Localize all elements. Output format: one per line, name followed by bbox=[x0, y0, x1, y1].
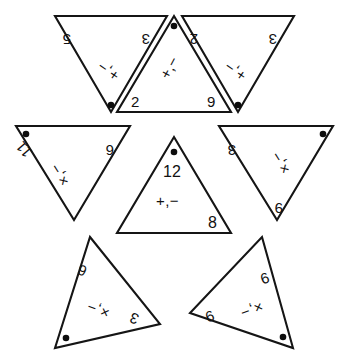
tile-top-left-dot bbox=[108, 102, 115, 109]
tile-right-corner-a: 3 bbox=[228, 142, 236, 159]
tile-center-dot bbox=[171, 149, 178, 156]
tile-top-right-corner-a: 2 bbox=[190, 31, 198, 48]
tile-top-left-corner-b: 3 bbox=[142, 31, 150, 48]
tile-left-dot bbox=[23, 131, 30, 138]
tile-center-corner-a: 12 bbox=[163, 163, 181, 180]
puzzle-canvas: 5 3 +,− 2 9 +,− 2 3 +,− 11 6 ×,− bbox=[0, 0, 348, 360]
tile-left-corner-b: 6 bbox=[106, 142, 114, 159]
tile-right[interactable]: 3 9 ×,− bbox=[219, 126, 333, 220]
tile-bottom-right-dot bbox=[280, 334, 287, 341]
tile-top-center-corner-b: 9 bbox=[207, 93, 215, 110]
tile-center-operator: +,− bbox=[156, 192, 179, 209]
tile-bottom-left[interactable]: 6 3 ×,− bbox=[55, 237, 160, 348]
tile-center[interactable]: 12 8 +,− bbox=[117, 137, 231, 233]
tile-right-corner-b: 9 bbox=[275, 200, 283, 217]
tile-center-corner-b: 8 bbox=[208, 214, 217, 231]
tile-top-center-corner-a: 2 bbox=[131, 93, 139, 110]
tile-bottom-right[interactable]: 9 9 ×,− bbox=[190, 237, 293, 348]
tile-top-right-dot bbox=[235, 102, 242, 109]
tile-bottom-left-dot bbox=[63, 335, 70, 342]
tile-left-shape[interactable] bbox=[16, 126, 130, 220]
tile-left[interactable]: 11 6 ×,− bbox=[12, 126, 130, 220]
tile-bottom-right-shape[interactable] bbox=[190, 237, 293, 348]
tile-top-right-corner-b: 3 bbox=[269, 31, 277, 48]
triangle-puzzle-diagram: 5 3 +,− 2 9 +,− 2 3 +,− 11 6 ×,− bbox=[0, 0, 348, 360]
tile-bottom-left-shape[interactable] bbox=[55, 237, 160, 348]
tile-top-center-dot bbox=[171, 23, 178, 30]
tile-right-dot bbox=[320, 131, 327, 138]
tile-top-left-corner-a: 5 bbox=[63, 31, 71, 48]
